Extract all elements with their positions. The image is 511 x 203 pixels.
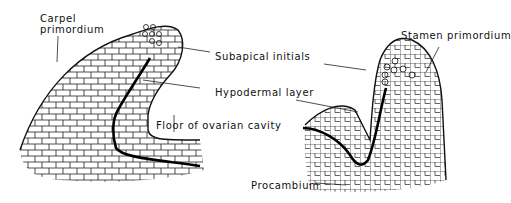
label-carpel-primordium-2: primordium [40, 24, 104, 35]
label-stamen-primordium: Stamen primordium [401, 30, 511, 41]
label-procambium: Procambium [251, 180, 319, 191]
label-subapical-initials: Subapical initials [215, 51, 310, 62]
carpel-primordium-section [0, 0, 260, 203]
label-hypodermal-layer: Hypodermal layer [215, 87, 314, 98]
label-carpel-primordium-1: Carpel [40, 13, 76, 24]
label-floor-of-ovarian-cavity: Floor of ovarian cavity [156, 120, 282, 131]
